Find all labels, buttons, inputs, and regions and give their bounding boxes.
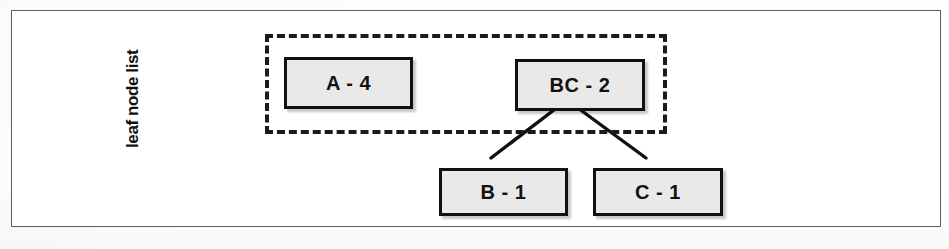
- node-a4-label: A - 4: [326, 72, 371, 95]
- node-a4[interactable]: A - 4: [284, 57, 413, 109]
- node-c1[interactable]: C - 1: [593, 168, 723, 216]
- node-bc2[interactable]: BC - 2: [515, 59, 645, 111]
- figure-outer-frame: leaf node list A - 4 BC - 2 B - 1 C - 1: [11, 10, 941, 227]
- leaf-node-list-label: leaf node list: [122, 44, 144, 148]
- node-b1-label: B - 1: [481, 181, 527, 204]
- figure-canvas: leaf node list A - 4 BC - 2 B - 1 C - 1: [0, 0, 949, 249]
- node-b1[interactable]: B - 1: [439, 168, 568, 216]
- node-c1-label: C - 1: [635, 181, 681, 204]
- node-bc2-label: BC - 2: [550, 74, 611, 97]
